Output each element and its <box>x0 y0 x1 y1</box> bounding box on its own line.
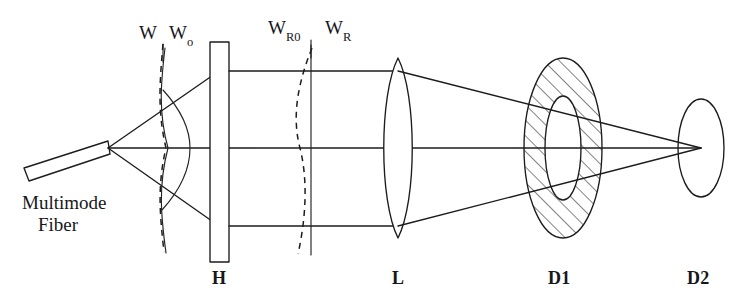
label-multimode-fiber-line2: Fiber <box>22 214 106 236</box>
label-component-H: H <box>212 268 226 289</box>
label-multimode-fiber: Multimode Fiber <box>22 192 106 236</box>
annular-stop-D1 <box>0 0 748 305</box>
label-component-L: L <box>392 268 404 289</box>
label-component-D1: D1 <box>548 268 570 289</box>
optical-diagram-figure: W Wo WR0 WR Multimode Fiber H L D1 D2 <box>0 0 748 305</box>
label-component-D2: D2 <box>687 268 709 289</box>
label-multimode-fiber-line1: Multimode <box>22 192 106 213</box>
label-wavefront-Wo-subscript: o <box>187 35 193 49</box>
label-wavefront-WR-subscript: R <box>343 30 351 44</box>
label-wavefront-WR: WR <box>325 17 351 42</box>
label-wavefront-WR0: WR0 <box>268 17 301 42</box>
diagram-canvas <box>0 0 748 305</box>
label-wavefront-Wo: Wo <box>169 22 193 47</box>
label-wavefront-WR0-subscript: R0 <box>286 30 301 44</box>
label-wavefront-W: W <box>139 22 157 44</box>
